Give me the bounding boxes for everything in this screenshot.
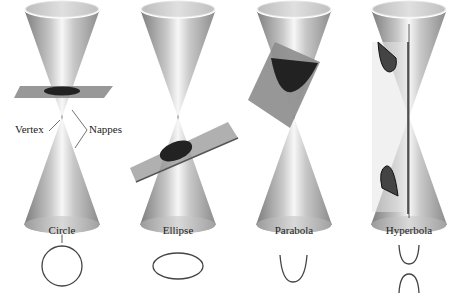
hyperbola-curve-lower — [399, 274, 419, 293]
nappes-leader — [72, 110, 87, 148]
panel-label-hyperbola: Hyperbola — [386, 224, 433, 236]
ellipse-curve — [153, 253, 203, 279]
double-cone — [140, 0, 216, 234]
circle-panel: Axis Vertex Nappes Circle — [14, 0, 122, 286]
hyperbola-panel: Axis Hyperbola — [371, 0, 447, 293]
parabola-curve — [280, 255, 307, 282]
hyperbola-curve-upper — [399, 245, 419, 264]
conic-sections-diagram: Axis Vertex Nappes Circle Axis Ellipse A… — [0, 0, 459, 303]
ellipse-panel: Axis Ellipse — [130, 0, 238, 279]
circle-curve — [42, 246, 82, 286]
circle-section — [44, 87, 80, 96]
double-cone — [24, 0, 100, 234]
parabola-panel: Axis Parabola — [248, 0, 332, 282]
panel-label-circle: Circle — [49, 224, 76, 236]
panel-label-parabola: Parabola — [275, 224, 314, 236]
nappes-label: Nappes — [89, 123, 122, 135]
panel-label-ellipse: Ellipse — [163, 224, 194, 236]
vertex-label: Vertex — [15, 123, 44, 135]
